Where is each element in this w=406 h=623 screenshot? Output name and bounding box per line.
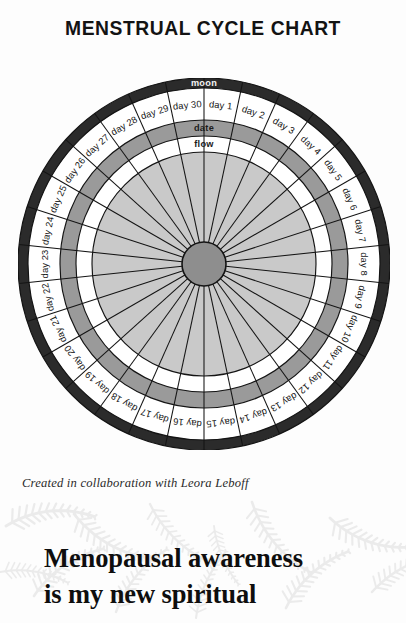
band-label-flow: flow [194,139,214,149]
menstrual-cycle-wheel: day 1day 2day 3day 4day 5day 6day 7day 8… [18,78,390,450]
band-label-date: date [194,123,214,133]
quote-line-2: is my new spiritual [44,579,256,610]
quote-block: Menopausal awareness is my new spiritual [0,500,406,623]
center-hub [182,242,226,286]
quote-line-1: Menopausal awareness [44,543,303,574]
day-label: day 8 [359,252,370,275]
band-label-moon: moon [191,78,217,88]
quote-lines: Menopausal awareness is my new spiritual [0,500,406,623]
page-title: MENSTRUAL CYCLE CHART [12,16,394,40]
day-label: day 23 [39,250,50,279]
cycle-wheel-svg: day 1day 2day 3day 4day 5day 6day 7day 8… [18,78,390,450]
credit-line: Created in collaboration with Leora Lebo… [22,476,249,491]
